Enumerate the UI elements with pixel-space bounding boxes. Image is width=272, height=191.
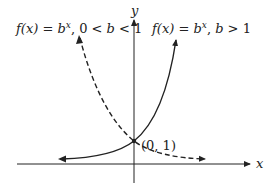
decay-function-label: f(x) = bx, 0 < b < 1: [15, 20, 142, 36]
growth-left-arrow-icon: [58, 156, 66, 163]
intersection-point: [132, 139, 136, 143]
growth-function-label: f(x) = bx, b > 1: [151, 20, 251, 36]
exponential-functions-diagram: (0, 1) y x f(x) = bx, 0 < b < 1 f(x) = b…: [0, 0, 272, 191]
y-axis-label: y: [130, 3, 139, 18]
decay-top-arrow-icon: [76, 35, 83, 44]
graph-canvas: (0, 1) y x f(x) = bx, 0 < b < 1 f(x) = b…: [0, 0, 272, 191]
point-label: (0, 1): [141, 138, 176, 153]
x-axis-label: x: [256, 156, 264, 171]
